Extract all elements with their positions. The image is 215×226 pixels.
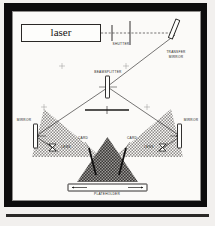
beam-cone-right [114,109,183,157]
beamsplitter [99,76,117,98]
figure-bottom-rule [6,214,209,217]
plateholder-label: PLATEHOLDER [94,192,120,196]
shutter-label: SHUTTER [113,42,130,46]
transfer-mirror [168,19,179,39]
mirror-right-label: MIRROR [184,118,198,122]
figure-inner-frame: laser [12,11,201,201]
transfer-mirror-label-line1: TRANSFER [166,50,185,54]
lens-right-label: LENS [144,145,153,149]
beam-cone-left [32,109,101,157]
optical-layout-svg [13,12,201,201]
card-right-label: CARD [127,136,137,140]
lens-left-label: LENS [61,145,70,149]
beamsplitter-label: BEAMSPLITTER [94,70,121,74]
transfer-mirror-label-line2: MIRROR [169,55,183,59]
card-left-label: CARD [78,136,88,140]
plateholder [68,184,147,191]
bench-bar [85,106,129,114]
mirror-left-label: MIRROR [17,118,31,122]
figure-page: laser [0,0,215,226]
